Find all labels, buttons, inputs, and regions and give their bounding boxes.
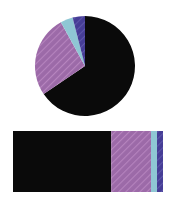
- pie-chart: [0, 0, 177, 126]
- bar-segment: [151, 131, 157, 192]
- pie-slice-group: [35, 16, 135, 116]
- bar-segment: [13, 131, 111, 192]
- bar-segment: [157, 131, 163, 192]
- figure-root: [0, 0, 177, 200]
- stacked-bar-chart: [0, 126, 177, 200]
- bar-segment-group: [13, 131, 163, 192]
- bar-segment: [111, 131, 151, 192]
